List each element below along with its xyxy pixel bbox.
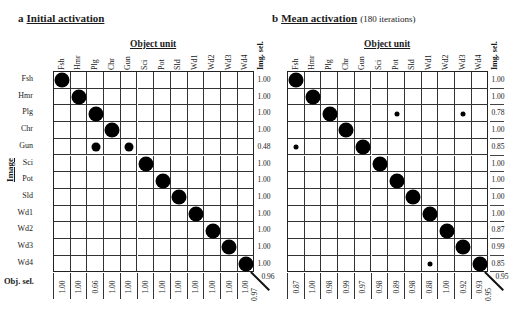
- matrix-cell: [455, 206, 472, 223]
- matrix-cell: [405, 206, 422, 223]
- panel-letter: b: [272, 12, 278, 24]
- matrix-cell: [455, 122, 472, 139]
- matrix-cell: [338, 206, 355, 223]
- matrix-cell: [438, 189, 455, 206]
- matrix-cell: [321, 122, 338, 139]
- activation-dot: [439, 223, 454, 238]
- img-sel-underline: [490, 155, 504, 156]
- activation-dot: [456, 240, 471, 255]
- activation-dot: [389, 173, 404, 188]
- matrix-cell: [305, 206, 322, 223]
- matrix-cell: [321, 172, 338, 189]
- img-sel-underline: [490, 238, 504, 239]
- activation-dot: [356, 140, 371, 155]
- activation-dot: [322, 106, 337, 121]
- img-sel-value: 1.00: [491, 209, 504, 218]
- corner-value-right: 0.95: [495, 272, 508, 281]
- matrix-cell: [438, 172, 455, 189]
- matrix-cell: [372, 72, 389, 89]
- matrix-cell: [405, 156, 422, 173]
- matrix-cell: [455, 89, 472, 106]
- matrix-cell: [288, 89, 305, 106]
- column-label: Pot: [387, 50, 404, 70]
- matrix-cell: [438, 239, 455, 256]
- matrix-cell: [372, 239, 389, 256]
- matrix-cell: [288, 105, 305, 122]
- obj-sel-value: 1.00: [437, 274, 454, 300]
- obj-sel-value: 0.87: [287, 274, 304, 300]
- img-sel-value: 0.87: [491, 225, 504, 234]
- img-sel-underline: [490, 171, 504, 172]
- panel-title-text: Mean activation: [281, 12, 357, 24]
- img-sel-underline: [490, 205, 504, 206]
- activation-dot: [372, 156, 387, 171]
- matrix-cell: [388, 256, 405, 273]
- matrix-cell: [388, 189, 405, 206]
- matrix-cell: [405, 239, 422, 256]
- column-label: Wd1: [421, 50, 438, 70]
- activation-dot: [394, 111, 399, 116]
- matrix-cell: [422, 72, 439, 89]
- matrix-cell: [355, 206, 372, 223]
- img-sel-value: 1.00: [491, 192, 504, 201]
- matrix-cell: [321, 239, 338, 256]
- matrix-cell: [472, 239, 489, 256]
- matrix-cell: [305, 122, 322, 139]
- matrix-cell: [288, 222, 305, 239]
- matrix-cell: [338, 105, 355, 122]
- matrix-cell: [472, 105, 489, 122]
- matrix-cell: [472, 89, 489, 106]
- matrix-cell: [355, 222, 372, 239]
- matrix-cell: [405, 89, 422, 106]
- matrix-cell: [288, 189, 305, 206]
- matrix-cell: [455, 156, 472, 173]
- obj-sel-value: 1.00: [304, 274, 321, 300]
- activation-dot: [294, 145, 299, 150]
- matrix-cell: [321, 206, 338, 223]
- panel-subtitle: (180 iterations): [360, 14, 415, 24]
- matrix-cell: [472, 189, 489, 206]
- matrix-cell: [288, 156, 305, 173]
- activation-dot: [473, 257, 488, 272]
- matrix-cell: [338, 256, 355, 273]
- img-sel-underline: [490, 88, 504, 89]
- matrix-cell: [405, 222, 422, 239]
- matrix-cell: [372, 139, 389, 156]
- matrix-cell: [388, 122, 405, 139]
- img-sel-value: 0.99: [491, 242, 504, 251]
- activation-dot: [461, 111, 466, 116]
- corner-value-bottom: 0.95: [484, 288, 493, 301]
- activation-dot: [406, 190, 421, 205]
- img-sel-value: 1.00: [491, 159, 504, 168]
- matrix-cell: [388, 206, 405, 223]
- matrix-cell: [438, 206, 455, 223]
- matrix-cell: [455, 139, 472, 156]
- activation-dot: [339, 123, 354, 138]
- obj-sel-separator: [371, 273, 372, 299]
- matrix-cell: [355, 72, 372, 89]
- matrix-cell: [472, 222, 489, 239]
- matrix-cell: [372, 172, 389, 189]
- matrix-cell: [472, 139, 489, 156]
- matrix-cell: [305, 189, 322, 206]
- matrix-cell: [338, 189, 355, 206]
- matrix-cell: [472, 156, 489, 173]
- column-label: Hmr: [304, 50, 321, 70]
- matrix-cell: [472, 122, 489, 139]
- matrix-cell: [305, 139, 322, 156]
- matrix-cell: [422, 222, 439, 239]
- matrix-cell: [305, 105, 322, 122]
- matrix-cell: [422, 89, 439, 106]
- matrix-cell: [338, 239, 355, 256]
- obj-sel-value: 0.98: [371, 274, 388, 300]
- activation-dot: [306, 90, 321, 105]
- matrix-cell: [405, 122, 422, 139]
- matrix-cell: [438, 122, 455, 139]
- img-sel-value: 1.00: [491, 75, 504, 84]
- matrix-cell: [321, 189, 338, 206]
- column-label: Fsh: [287, 50, 304, 70]
- matrix-cell: [288, 256, 305, 273]
- matrix-cell: [305, 256, 322, 273]
- panel-title: bMean activation(180 iterations): [272, 12, 415, 24]
- img-sel-header: Img. sel.: [488, 40, 502, 70]
